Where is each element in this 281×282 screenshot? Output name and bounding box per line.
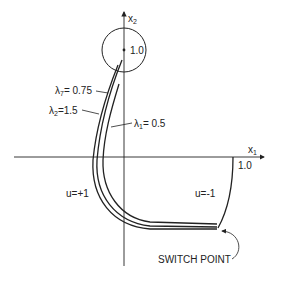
region-label-u-plus: u=+1 <box>66 188 89 199</box>
phase-plane-diagram: x2 1.0 x1 1.0 λ7= 0.75 λ2=1.5 λ1= 0.5 u=… <box>0 0 281 282</box>
origin-point-dot <box>123 49 126 52</box>
trajectory-lambda-1 <box>103 84 217 224</box>
x2-axis-label: x2 <box>128 13 137 25</box>
lambda-2-label: λ2=1.5 <box>49 105 78 117</box>
leader-lambda-2 <box>82 110 99 114</box>
lambda-7-label: λ7= 0.75 <box>55 85 92 97</box>
x1-axis-label: x1 <box>248 144 257 156</box>
leader-lambda-1 <box>111 123 132 127</box>
lambda-1-label: λ1= 0.5 <box>134 118 166 130</box>
x2-tick-label: 1.0 <box>130 45 144 56</box>
x1-tick-label: 1.0 <box>238 160 252 171</box>
leader-lambda-7 <box>96 91 108 93</box>
region-label-u-minus: u=-1 <box>195 188 216 199</box>
switch-point-label: SWITCH POINT <box>158 254 231 265</box>
switching-curve <box>218 157 233 228</box>
